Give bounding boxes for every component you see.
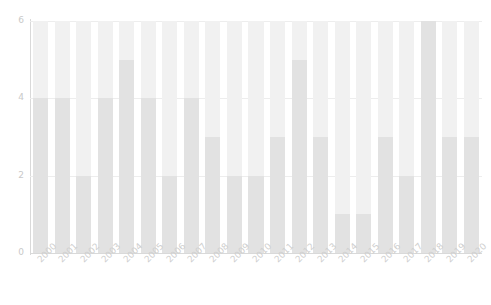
bar-2000[interactable] (33, 21, 48, 253)
bar-2015[interactable] (356, 21, 371, 253)
bar-segment-upper (205, 21, 220, 137)
bar-segment-upper (292, 21, 307, 60)
bar-segment-upper (356, 21, 371, 214)
bar-segment-lower (162, 176, 177, 253)
bar-2012[interactable] (292, 21, 307, 253)
bar-segment-lower (227, 176, 242, 253)
bar-2010[interactable] (248, 21, 263, 253)
bar-segment-upper (76, 21, 91, 176)
bar-segment-lower (98, 98, 113, 253)
bar-segment-upper (227, 21, 242, 176)
bar-segment-upper (119, 21, 134, 60)
bar-segment-upper (55, 21, 70, 98)
bar-2005[interactable] (141, 21, 156, 253)
bar-2018[interactable] (421, 21, 436, 253)
bar-segment-lower (76, 176, 91, 253)
bar-2019[interactable] (442, 21, 457, 253)
bar-segment-lower (313, 137, 328, 253)
y-tick-label: 6 (8, 16, 24, 25)
bar-chart: 0246 20002001200220032004200520062007200… (0, 0, 491, 305)
bar-2006[interactable] (162, 21, 177, 253)
bar-segment-upper (313, 21, 328, 137)
bar-2004[interactable] (119, 21, 134, 253)
bar-2003[interactable] (98, 21, 113, 253)
bar-segment-upper (98, 21, 113, 98)
bar-segment-upper (162, 21, 177, 176)
bar-2007[interactable] (184, 21, 199, 253)
bar-segment-lower (184, 98, 199, 253)
y-axis-tick-labels: 0246 (0, 0, 28, 305)
bar-segment-upper (248, 21, 263, 176)
bar-segment-upper (464, 21, 479, 137)
bar-segment-upper (399, 21, 414, 176)
bar-2008[interactable] (205, 21, 220, 253)
bar-segment-lower (248, 176, 263, 253)
bar-segment-upper (184, 21, 199, 98)
bar-segment-lower (270, 137, 285, 253)
bar-segment-upper (141, 21, 156, 98)
bar-segment-lower (399, 176, 414, 253)
plot-area (30, 21, 482, 253)
bar-segment-upper (442, 21, 457, 137)
y-tick-label: 0 (8, 248, 24, 257)
bar-2013[interactable] (313, 21, 328, 253)
bar-segment-lower (292, 60, 307, 253)
bar-segment-upper (33, 21, 48, 98)
bar-segment-upper (378, 21, 393, 137)
bar-segment-lower (141, 98, 156, 253)
bar-2001[interactable] (55, 21, 70, 253)
y-tick-label: 2 (8, 171, 24, 180)
bar-segment-upper (270, 21, 285, 137)
bar-2011[interactable] (270, 21, 285, 253)
bar-2017[interactable] (399, 21, 414, 253)
bar-segment-lower (55, 98, 70, 253)
bar-segment-lower (119, 60, 134, 253)
bar-segment-upper (335, 21, 350, 214)
bar-2016[interactable] (378, 21, 393, 253)
bar-2020[interactable] (464, 21, 479, 253)
bar-2002[interactable] (76, 21, 91, 253)
bar-2014[interactable] (335, 21, 350, 253)
bar-segment-lower (442, 137, 457, 253)
bar-segment-lower (378, 137, 393, 253)
bar-segment-lower (205, 137, 220, 253)
y-tick-label: 4 (8, 93, 24, 102)
bar-segment-lower (421, 21, 436, 253)
x-axis-tick-labels: 2000200120022003200420052006200720082009… (30, 254, 482, 305)
bar-segment-lower (33, 98, 48, 253)
bar-segment-lower (464, 137, 479, 253)
bar-2009[interactable] (227, 21, 242, 253)
